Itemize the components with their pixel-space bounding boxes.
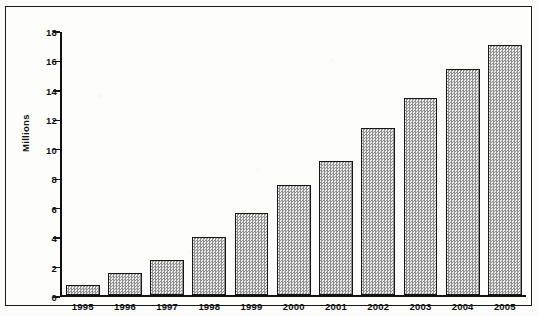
- bar-2001[interactable]: [319, 161, 353, 295]
- bar-2005[interactable]: [488, 45, 522, 295]
- x-tick-label-2005: 2005: [494, 301, 516, 312]
- bar-group: 2003: [404, 32, 438, 295]
- x-tick-label-2004: 2004: [452, 301, 474, 312]
- y-tick-label: 6: [52, 203, 57, 214]
- x-tick-label-1996: 1996: [114, 301, 136, 312]
- plot-area: 024681012141618 199519961997199819992000…: [60, 32, 526, 297]
- bar-2000[interactable]: [277, 185, 311, 295]
- y-tick-label: 16: [46, 56, 57, 67]
- x-axis-line: [60, 295, 526, 297]
- bar-1996[interactable]: [108, 273, 142, 295]
- bar-group: 1996: [108, 32, 142, 295]
- bar-group: 1997: [150, 32, 184, 295]
- y-tick-label: 4: [52, 233, 57, 244]
- bar-1999[interactable]: [235, 213, 269, 295]
- bar-1995[interactable]: [66, 285, 100, 295]
- bar-2004[interactable]: [446, 69, 480, 296]
- bar-group: 2005: [488, 32, 522, 295]
- bar-group: 1995: [66, 32, 100, 295]
- chart-outer-frame: Millions 024681012141618 199519961997199…: [5, 6, 532, 306]
- y-axis-title: Millions: [20, 114, 31, 152]
- y-tick-label: 14: [46, 85, 57, 96]
- y-tick-label: 0: [52, 292, 57, 303]
- y-tick-label: 12: [46, 115, 57, 126]
- bar-2002[interactable]: [361, 128, 395, 296]
- bar-group: 1999: [235, 32, 269, 295]
- bar-series: 1995199619971998199920002001200220032004…: [62, 32, 526, 295]
- bar-1998[interactable]: [192, 237, 226, 296]
- bar-2003[interactable]: [404, 98, 438, 295]
- x-tick-label-2003: 2003: [409, 301, 431, 312]
- bar-group: 2004: [446, 32, 480, 295]
- x-tick-label-1995: 1995: [72, 301, 94, 312]
- bar-group: 2001: [319, 32, 353, 295]
- x-tick-label-1998: 1998: [198, 301, 220, 312]
- bar-group: 2000: [277, 32, 311, 295]
- x-tick-label-2000: 2000: [283, 301, 305, 312]
- x-tick-label-1997: 1997: [156, 301, 178, 312]
- y-tick-label: 2: [52, 262, 57, 273]
- chart-screenshot: Millions 024681012141618 199519961997199…: [0, 0, 538, 316]
- y-tick-label: 8: [52, 174, 57, 185]
- y-tick-label: 10: [46, 144, 57, 155]
- bar-group: 2002: [361, 32, 395, 295]
- x-tick-label-2002: 2002: [367, 301, 389, 312]
- bar-1997[interactable]: [150, 260, 184, 295]
- y-tick-label: 18: [46, 27, 57, 38]
- bar-group: 1998: [192, 32, 226, 295]
- x-tick-label-2001: 2001: [325, 301, 347, 312]
- x-tick-label-1999: 1999: [241, 301, 263, 312]
